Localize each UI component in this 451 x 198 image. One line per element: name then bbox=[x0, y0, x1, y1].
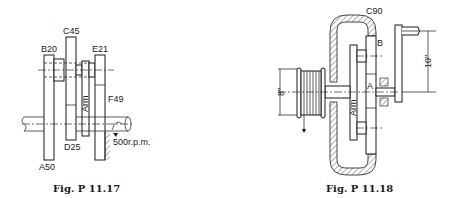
label-e21: E21 bbox=[92, 44, 108, 54]
planet-gear-column bbox=[366, 36, 376, 154]
dimension-10in: 10" bbox=[402, 31, 436, 92]
arm-right bbox=[350, 45, 357, 140]
label-a50: A50 bbox=[39, 162, 55, 172]
label-speed: 500r.p.m. bbox=[113, 137, 151, 147]
label-c45: C45 bbox=[63, 26, 80, 36]
label-c90: C90 bbox=[366, 6, 383, 16]
diagram-canvas: B20 C45 E21 F49 D25 A50 500r.p.m. Arm Fi… bbox=[0, 0, 451, 198]
load-arrow-icon bbox=[302, 129, 306, 133]
rotation-arrow-icon bbox=[112, 122, 122, 130]
label-b20: B20 bbox=[41, 44, 57, 54]
label-arm: Arm bbox=[80, 96, 90, 113]
gear-e-f bbox=[95, 55, 105, 160]
gear-a bbox=[44, 55, 54, 160]
label-d25: D25 bbox=[64, 142, 81, 152]
label-a: A bbox=[367, 81, 373, 91]
caption-fig-p11-17: Fig. P 11.17 bbox=[53, 183, 120, 194]
label-10in: 10" bbox=[423, 55, 433, 68]
caption-fig-p11-18: Fig. P 11.18 bbox=[326, 183, 393, 194]
figure-p11-18: 8" 10" C90 B A Arm Fig. P 11.18 bbox=[276, 6, 436, 194]
label-f49: F49 bbox=[108, 94, 124, 104]
drum bbox=[297, 68, 325, 133]
figure-p11-17: B20 C45 E21 F49 D25 A50 500r.p.m. Arm Fi… bbox=[22, 26, 151, 194]
gear-c bbox=[66, 37, 76, 140]
crank bbox=[395, 25, 402, 102]
label-8in: 8" bbox=[276, 88, 286, 96]
label-arm-right: Arm bbox=[348, 100, 358, 117]
label-b: B bbox=[377, 38, 383, 48]
